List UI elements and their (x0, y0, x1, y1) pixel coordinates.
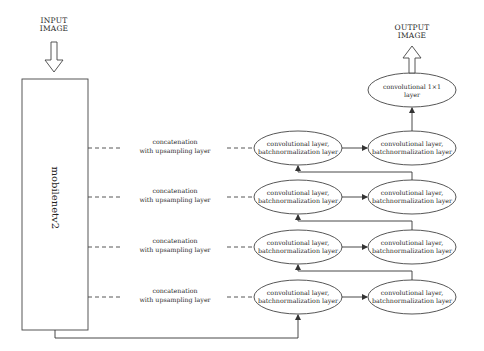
concat-line1: concatenation (120, 287, 230, 296)
left-column-blocks (254, 131, 342, 314)
left-block-row1: convolutional layer, batchnormalization … (253, 140, 343, 156)
left-block-row3: convolutional layer, batchnormalization … (253, 239, 343, 255)
concat-label-row2: concatenation with upsampling layer (120, 187, 230, 204)
block-line2: batchnormalization layer (367, 297, 457, 305)
output-arrow-icon (403, 46, 421, 73)
skip-connections (88, 148, 258, 297)
final-layer-line2: layer (367, 91, 457, 99)
right-block-row2: convolutional layer, batchnormalization … (367, 189, 457, 205)
final-layer-line1: convolutional 1×1 (367, 83, 457, 91)
concat-label-row3: concatenation with upsampling layer (120, 237, 230, 254)
concat-label-row1: concatenation with upsampling layer (120, 138, 230, 155)
concat-line1: concatenation (120, 237, 230, 246)
left-block-row2: convolutional layer, batchnormalization … (253, 189, 343, 205)
block-line2: batchnormalization layer (367, 148, 457, 156)
forward-arrows (342, 148, 367, 297)
concat-line2: with upsampling layer (120, 147, 230, 156)
block-line2: batchnormalization layer (367, 247, 457, 255)
block-line2: batchnormalization layer (253, 148, 343, 156)
block-line1: convolutional layer, (367, 239, 457, 247)
block-line1: convolutional layer, (253, 239, 343, 247)
upsampling-paths (55, 108, 412, 338)
block-line2: batchnormalization layer (253, 247, 343, 255)
input-image-label: INPUT IMAGE (34, 17, 74, 34)
block-line1: convolutional layer, (253, 140, 343, 148)
left-block-row4: convolutional layer, batchnormalization … (253, 289, 343, 305)
right-block-row3: convolutional layer, batchnormalization … (367, 239, 457, 255)
output-image-label: OUTPUT IMAGE (390, 24, 434, 41)
block-line2: batchnormalization layer (253, 297, 343, 305)
block-line1: convolutional layer, (253, 289, 343, 297)
final-conv-1x1-label: convolutional 1×1 layer (367, 83, 457, 99)
concat-line1: concatenation (120, 138, 230, 147)
unet-architecture-diagram: INPUT IMAGE OUTPUT IMAGE mobilenetv2 con… (0, 0, 484, 351)
concat-line2: with upsampling layer (120, 196, 230, 205)
input-arrow-icon (45, 42, 63, 72)
block-line1: convolutional layer, (367, 140, 457, 148)
block-line1: convolutional layer, (253, 189, 343, 197)
input-label-line2: IMAGE (34, 25, 74, 33)
block-line2: batchnormalization layer (367, 197, 457, 205)
block-line2: batchnormalization layer (253, 197, 343, 205)
concat-line1: concatenation (120, 187, 230, 196)
right-block-row1: convolutional layer, batchnormalization … (367, 140, 457, 156)
concat-label-row4: concatenation with upsampling layer (120, 287, 230, 304)
concat-line2: with upsampling layer (120, 296, 230, 305)
block-line1: convolutional layer, (367, 189, 457, 197)
mobilenetv2-label: mobilenetv2 (50, 167, 61, 229)
output-label-line2: IMAGE (390, 32, 434, 40)
block-line1: convolutional layer, (367, 289, 457, 297)
concat-line2: with upsampling layer (120, 246, 230, 255)
right-block-row4: convolutional layer, batchnormalization … (367, 289, 457, 305)
